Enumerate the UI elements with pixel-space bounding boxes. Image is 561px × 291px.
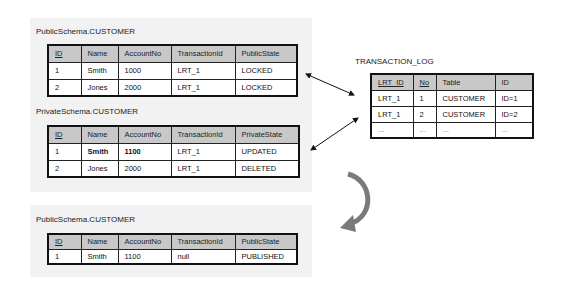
arrows-layer [0, 0, 561, 291]
double-arrow-icon [311, 118, 358, 150]
double-arrow-icon [306, 74, 354, 95]
curved-arrow-icon [340, 174, 368, 232]
